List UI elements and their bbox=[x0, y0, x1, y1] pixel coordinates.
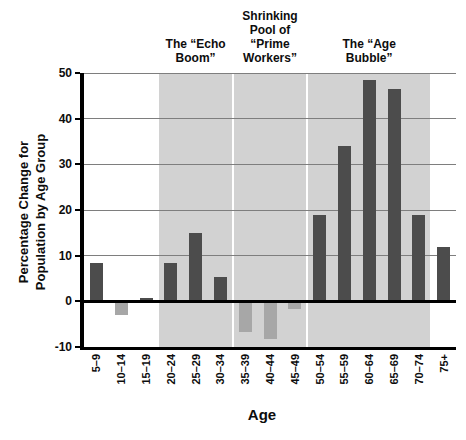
y-tick bbox=[75, 72, 80, 74]
x-tick-label: 5–9 bbox=[89, 354, 103, 400]
bar bbox=[363, 80, 376, 301]
y-tick bbox=[75, 118, 80, 120]
x-tick-label: 60–64 bbox=[362, 354, 376, 400]
bar bbox=[90, 263, 103, 301]
bar bbox=[189, 233, 202, 302]
bar bbox=[412, 215, 425, 302]
gridline bbox=[84, 73, 456, 74]
x-tick-label: 10–14 bbox=[114, 354, 128, 400]
y-tick-label: -10 bbox=[30, 340, 72, 354]
x-tick-label: 45–49 bbox=[288, 354, 302, 400]
x-tick-label: 65–69 bbox=[387, 354, 401, 400]
bar bbox=[115, 301, 128, 315]
bar bbox=[437, 247, 450, 301]
x-tick-label: 40–44 bbox=[263, 354, 277, 400]
y-axis-line bbox=[80, 73, 84, 350]
y-tick bbox=[75, 300, 80, 302]
y-tick-label: 40 bbox=[30, 112, 72, 126]
bar bbox=[313, 215, 326, 302]
y-tick bbox=[75, 163, 80, 165]
region-annotation: The “Age Bubble” bbox=[299, 37, 439, 65]
x-tick-label: 50–54 bbox=[313, 354, 327, 400]
population-change-bar-chart: Percentage Change for Population by Age … bbox=[0, 0, 466, 440]
y-tick bbox=[75, 209, 80, 211]
bar bbox=[264, 301, 277, 338]
x-axis-line bbox=[80, 347, 456, 350]
y-tick-label: 20 bbox=[30, 203, 72, 217]
y-tick bbox=[75, 346, 80, 348]
x-tick-label: 15–19 bbox=[139, 354, 153, 400]
y-tick-label: 10 bbox=[30, 249, 72, 263]
x-tick-label: 20–24 bbox=[164, 354, 178, 400]
x-tick-label: 35–39 bbox=[238, 354, 252, 400]
x-tick-label: 30–34 bbox=[213, 354, 227, 400]
x-tick-label: 70–74 bbox=[412, 354, 426, 400]
bar bbox=[239, 301, 252, 332]
y-tick-label: 30 bbox=[30, 157, 72, 171]
bar bbox=[388, 89, 401, 301]
y-tick bbox=[75, 255, 80, 257]
y-tick-label: 50 bbox=[30, 66, 72, 80]
x-tick-label: 75+ bbox=[437, 354, 451, 400]
x-tick-label: 25–29 bbox=[189, 354, 203, 400]
y-tick-label: 0 bbox=[30, 294, 72, 308]
x-axis-title: Age bbox=[230, 406, 294, 423]
x-tick-label: 55–59 bbox=[337, 354, 351, 400]
bar bbox=[338, 146, 351, 301]
bar bbox=[214, 277, 227, 302]
bar bbox=[164, 263, 177, 302]
zero-line bbox=[80, 300, 456, 303]
